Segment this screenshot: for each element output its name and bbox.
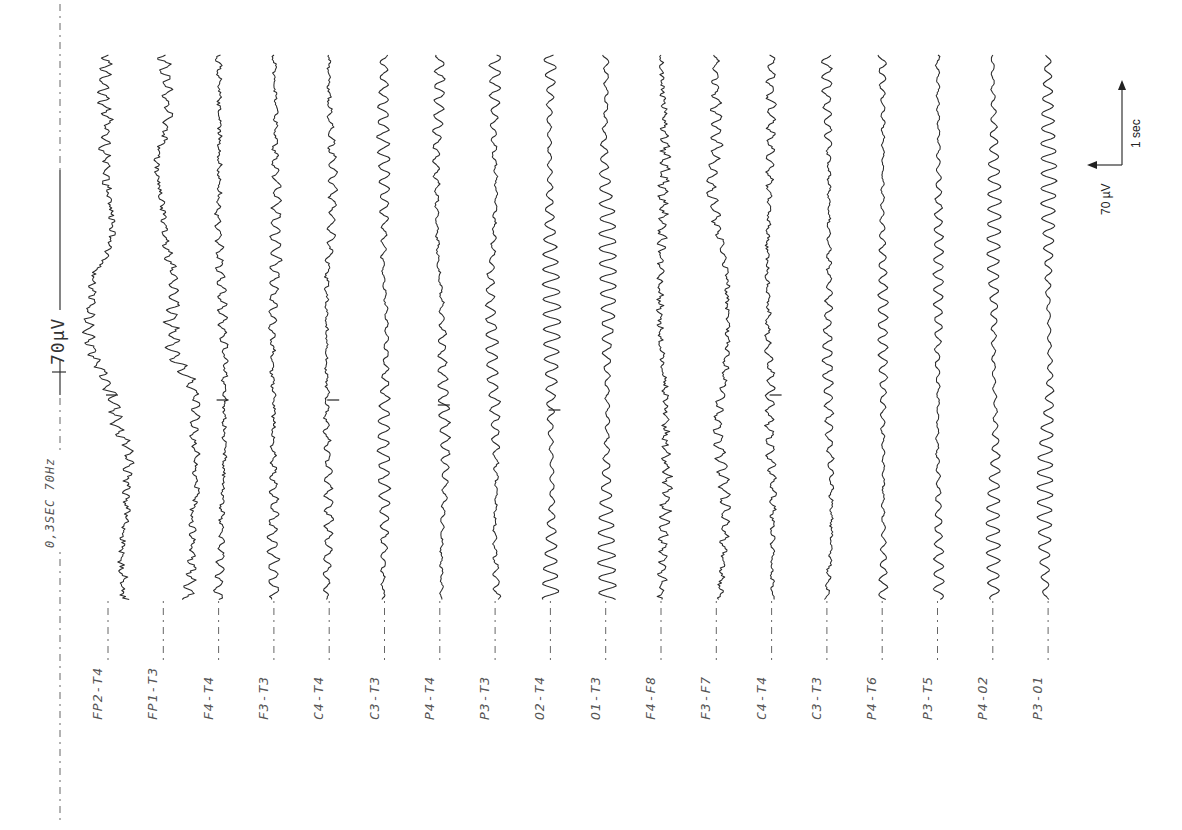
filter-settings-text: 0,3SEC 70Hz: [43, 458, 57, 548]
channel-label: O2-T4: [532, 676, 547, 720]
channel-labels: FP2-T4FP1-T3F4-T4F3-T3C4-T4C3-T3P4-T4P3-…: [90, 600, 1048, 720]
channel-label: FP2-T4: [90, 667, 105, 720]
channel-label: C4-T4: [311, 676, 326, 720]
eeg-trace-o1-t3: [598, 55, 617, 600]
eeg-trace-p3-t5: [933, 55, 944, 600]
channel-label: P3-O1: [1030, 676, 1045, 720]
eeg-trace-c3-t3: [377, 55, 391, 600]
eeg-trace-f4-f8: [656, 55, 672, 600]
eeg-trace-fp1-t3: [154, 55, 200, 600]
calibration-text: 70µV: [47, 318, 68, 365]
eeg-chart: 0,3SEC 70Hz 70µV FP2-T4FP1-T3F4-T4F3-T3C…: [0, 0, 1182, 830]
amplitude-arrow-icon: [1087, 161, 1097, 169]
channel-label: C3-T3: [809, 676, 824, 720]
eeg-trace-c3-t3: [822, 55, 835, 600]
eeg-trace-o2-t4: [542, 55, 561, 600]
channel-label: P3-T5: [920, 676, 935, 720]
eeg-trace-f3-t3: [267, 55, 282, 600]
channel-label: P3-T3: [477, 676, 492, 720]
channel-label: C4-T4: [754, 676, 769, 720]
channel-label: F4-T4: [201, 676, 216, 720]
channel-label: O1-T3: [588, 676, 603, 720]
channel-label: FP1-T3: [145, 667, 160, 720]
eeg-traces: [83, 55, 1058, 600]
eeg-trace-c4-t4: [323, 55, 338, 600]
amplitude-scale-label: 70 µV: [1099, 183, 1113, 215]
channel-label: P4-T4: [422, 676, 437, 720]
eeg-trace-p3-o1: [1037, 55, 1057, 600]
eeg-trace-p4-o2: [986, 55, 1001, 600]
eeg-trace-f4-t4: [214, 55, 229, 600]
scale-bar: 1 sec 70 µV: [1087, 80, 1143, 215]
channel-label: F3-T3: [256, 676, 271, 720]
channel-label: P4-O2: [975, 676, 990, 720]
header-column: 0,3SEC 70Hz 70µV: [43, 2, 68, 820]
eeg-trace-fp2-t4: [83, 55, 135, 600]
channel-label: P4-T6: [864, 676, 879, 720]
channel-label: F4-F8: [643, 676, 658, 720]
channel-label: F3-F7: [698, 676, 713, 720]
eeg-trace-f3-f7: [707, 55, 731, 600]
eeg-trace-p3-t3: [485, 55, 500, 600]
time-arrow-icon: [1118, 80, 1126, 90]
eeg-trace-p4-t6: [878, 55, 889, 600]
time-scale-label: 1 sec: [1129, 119, 1143, 148]
channel-label: C3-T3: [367, 676, 382, 720]
eeg-trace-c4-t4: [765, 55, 777, 600]
eeg-trace-p4-t4: [433, 55, 451, 600]
